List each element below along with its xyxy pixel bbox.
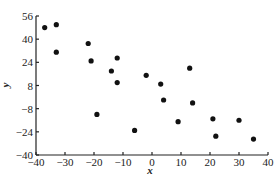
data-point: [190, 100, 195, 105]
data-points: [42, 22, 256, 142]
data-point: [187, 66, 192, 71]
data-point: [94, 112, 99, 117]
y-tick-label: −8: [21, 103, 33, 115]
x-tick-label: 20: [205, 156, 217, 168]
scatter-chart: −40−30−20−10010203040−40−24−88244056 x y: [0, 0, 275, 176]
y-tick-label: −40: [16, 149, 34, 161]
data-point: [132, 128, 137, 133]
y-tick-label: 24: [22, 56, 34, 68]
x-tick-label: 30: [234, 156, 246, 168]
data-point: [115, 80, 120, 85]
data-point: [54, 22, 59, 27]
x-tick-label: 40: [263, 156, 275, 168]
x-tick-label: −30: [56, 156, 74, 168]
data-point: [236, 118, 241, 123]
data-point: [109, 68, 114, 73]
data-point: [54, 50, 59, 55]
y-tick-label: −24: [16, 126, 34, 138]
data-point: [144, 73, 149, 78]
data-point: [89, 58, 94, 63]
data-point: [115, 55, 120, 60]
data-point: [158, 81, 163, 86]
data-point: [176, 119, 181, 124]
x-tick-label: 10: [176, 156, 188, 168]
axes: −40−30−20−10010203040−40−24−88244056: [16, 10, 274, 168]
x-axis-label: x: [146, 164, 153, 176]
data-point: [213, 134, 218, 139]
y-tick-label: 8: [28, 80, 34, 92]
y-axis-label: y: [0, 82, 11, 89]
x-tick-label: −10: [114, 156, 132, 168]
data-point: [210, 116, 215, 121]
x-tick-label: −20: [85, 156, 103, 168]
data-point: [161, 97, 166, 102]
data-point: [42, 25, 47, 30]
y-tick-label: 40: [22, 33, 34, 45]
data-point: [251, 136, 256, 141]
data-point: [86, 41, 91, 46]
y-tick-label: 56: [22, 10, 34, 22]
